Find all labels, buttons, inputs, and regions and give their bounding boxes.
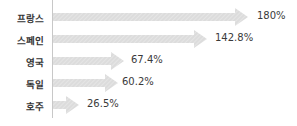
value-label: 26.5% <box>87 98 119 109</box>
category-label: 영국 <box>26 55 44 69</box>
category-label: 스페인 <box>17 33 44 47</box>
value-label: 142.8% <box>215 32 253 43</box>
bar-row-australia: 호주 26.5% <box>0 95 297 117</box>
category-label: 프랑스 <box>17 11 44 25</box>
value-label: 180% <box>257 10 286 21</box>
category-label: 독일 <box>26 77 44 91</box>
arrow-bar <box>53 8 249 26</box>
arrow-bar <box>53 74 119 92</box>
value-label: 67.4% <box>131 54 163 65</box>
bar-row-uk: 영국 67.4% <box>0 51 297 73</box>
arrow-bar <box>53 52 125 70</box>
horizontal-arrow-bar-chart: 프랑스 180% 스페인 142.8% 영국 67.4% 독일 <box>0 0 297 126</box>
bar-row-germany: 독일 60.2% <box>0 73 297 95</box>
value-label: 60.2% <box>122 76 154 87</box>
arrow-bar <box>53 30 208 48</box>
arrow-bar <box>53 96 80 114</box>
bar-row-spain: 스페인 142.8% <box>0 29 297 51</box>
category-label: 호주 <box>26 99 44 113</box>
bar-row-france: 프랑스 180% <box>0 7 297 29</box>
